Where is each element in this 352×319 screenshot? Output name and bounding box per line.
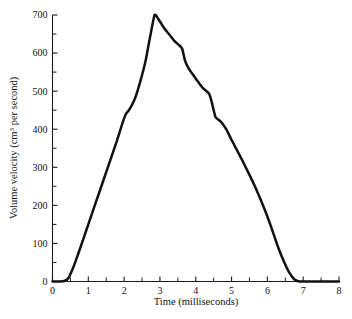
x-tick-label: 4 [193,285,198,296]
x-tick-label: 2 [122,285,127,296]
y-tick-label: 300 [33,162,48,173]
x-tick-label: 7 [301,285,306,296]
x-axis-title: Time (milliseconds) [154,296,239,308]
chart-plot: 0100200300400500600700 012345678 Volume … [0,0,352,319]
y-axis-ticks [53,15,58,282]
y-tick-label: 500 [33,86,48,97]
y-tick-label: 600 [33,47,48,58]
axes-lines [52,15,339,282]
y-tick-label: 0 [43,276,48,287]
volume-velocity-curve [53,15,340,282]
x-axis-tick-labels: 012345678 [50,285,342,296]
y-axis-title: Volume velocity (cm3 per second) [8,76,21,219]
x-tick-label: 3 [157,285,162,296]
y-tick-label: 100 [33,238,48,249]
y-axis-tick-labels: 0100200300400500600700 [33,9,48,287]
y-tick-label: 200 [33,200,48,211]
x-tick-label: 5 [229,285,234,296]
y-axis-title-suffix: per second) [8,76,20,128]
x-tick-label: 8 [337,285,342,296]
y-axis-title-prefix: Volume velocity (cm [8,131,20,219]
figure-container: 0100200300400500600700 012345678 Volume … [0,0,352,319]
x-tick-label: 6 [265,285,270,296]
x-tick-label: 1 [86,285,91,296]
y-tick-label: 400 [33,124,48,135]
svg-text:Volume velocity (cm3 per secon: Volume velocity (cm3 per second) [8,76,21,219]
y-tick-label: 700 [33,9,48,20]
x-tick-label: 0 [50,285,55,296]
x-axis-title-label: Time (milliseconds) [154,296,239,308]
